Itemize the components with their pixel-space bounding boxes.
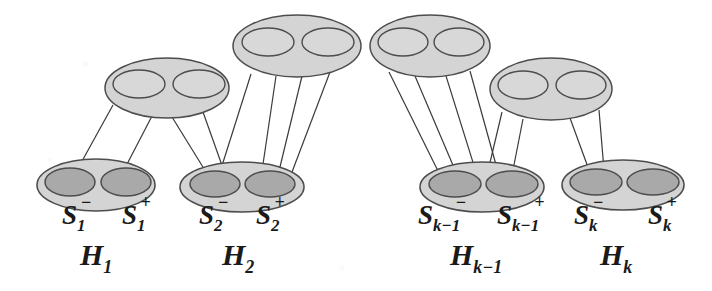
- bottom-node[interactable]: [420, 162, 544, 212]
- bottom-node-minus-lobe: [190, 171, 240, 197]
- top-node-left-lobe: [113, 70, 165, 98]
- top-node[interactable]: [105, 58, 229, 118]
- top-node[interactable]: [490, 58, 612, 120]
- top-node-right-lobe: [434, 28, 484, 56]
- hypergraph-label: Hk: [599, 238, 632, 277]
- top-node-right-lobe: [556, 71, 606, 99]
- hypergraph-label: H2: [221, 238, 254, 277]
- hypergraph-chain-figure: S1−S1+H1S2−S2+H2Sk−1−Sk−1+Hk−1Sk−Sk+Hk: [0, 0, 712, 291]
- top-node-left-lobe: [242, 28, 294, 56]
- top-node-right-lobe: [302, 28, 354, 56]
- edge-line: [279, 76, 302, 171]
- top-node-right-lobe: [173, 70, 225, 98]
- edge-line: [415, 76, 455, 170]
- hypergraph-label: Hk−1: [449, 238, 502, 277]
- edge-line: [262, 76, 276, 171]
- top-node[interactable]: [233, 15, 361, 77]
- bottom-node[interactable]: [37, 159, 155, 211]
- edge-line: [570, 118, 589, 170]
- label-layer: S1−S1+H1S2−S2+H2Sk−1−Sk−1+Hk−1Sk−Sk+Hk: [62, 192, 677, 277]
- hypergraph-label: H1: [79, 238, 112, 277]
- edge-line: [172, 117, 206, 172]
- bottom-node-plus-lobe: [486, 171, 538, 197]
- top-node-left-lobe: [378, 28, 428, 56]
- edge-line: [389, 72, 438, 171]
- bottom-node-plus-lobe: [245, 171, 295, 197]
- edge-line: [203, 112, 224, 171]
- top-node-layer: [105, 15, 612, 120]
- edge-line: [446, 76, 476, 172]
- edge-line: [292, 72, 330, 172]
- edge-line: [513, 119, 523, 170]
- edge-line: [124, 116, 152, 170]
- top-node-left-lobe: [498, 71, 548, 99]
- top-node[interactable]: [370, 15, 490, 77]
